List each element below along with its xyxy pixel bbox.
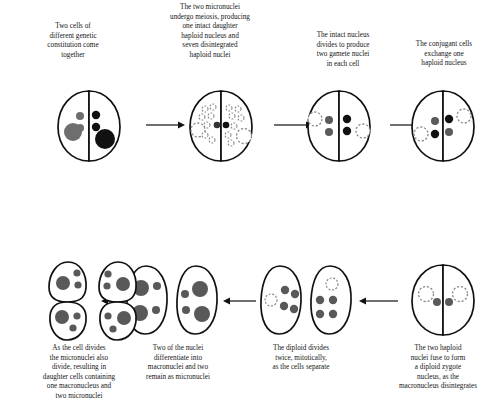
- micronucleus: [181, 290, 189, 298]
- nucleus: [280, 302, 288, 310]
- micronucleus-black: [92, 111, 100, 119]
- micronucleus: [152, 306, 160, 314]
- caption-stage-1: Two cells of different genetic constitut…: [18, 22, 128, 60]
- cell-stage-1: [50, 88, 128, 164]
- cell-stage-3: [300, 88, 378, 164]
- zygote-nucleus: [433, 298, 441, 306]
- gamete-nucleus-black: [343, 115, 351, 123]
- caption-stage-8: As the cell divides the micronuclei also…: [18, 344, 140, 402]
- caption-stage-4: The conjugant cells exchange one haploid…: [396, 40, 492, 69]
- macronucleus-black: [95, 129, 115, 149]
- nucleus: [316, 296, 324, 304]
- macronucleus-disintegrating: [356, 124, 370, 138]
- micronucleus-black: [92, 123, 100, 131]
- caption-stage-2: The two micronuclei undergo meiosis, pro…: [146, 3, 274, 61]
- macronucleus-disintegrating: [308, 112, 322, 126]
- nucleus: [316, 310, 324, 318]
- macronucleus-disintegrating: [414, 127, 428, 141]
- macronucleus: [194, 306, 210, 322]
- gamete-nucleus-grey: [325, 128, 333, 136]
- cell-stage-6: [258, 262, 354, 338]
- macronucleus-disintegrating: [457, 109, 471, 123]
- micronucleus-grey: [76, 112, 84, 120]
- macronucleus: [192, 281, 208, 297]
- micronucleus: [104, 312, 111, 319]
- arrow-1-2: [146, 120, 186, 130]
- caption-stage-5: The two haploid nuclei fuse to form a di…: [382, 344, 494, 392]
- macronucleus: [117, 311, 131, 325]
- nucleus: [290, 305, 298, 313]
- arrow-5-6: [358, 296, 398, 306]
- macronucleus-remnant: [326, 278, 338, 290]
- zygote-nucleus: [445, 298, 453, 306]
- nucleus-grey: [445, 128, 453, 136]
- micronucleus: [73, 312, 80, 319]
- cell-left-membrane: [412, 91, 443, 161]
- micronucleus: [182, 306, 190, 314]
- micronucleus: [103, 282, 110, 289]
- differentiated-cell-membrane: [177, 266, 217, 334]
- macronucleus: [56, 276, 70, 290]
- nucleus: [291, 290, 299, 298]
- nucleus-black: [431, 130, 439, 138]
- intact-haploid-nucleus-left: [214, 122, 221, 129]
- macronucleus: [55, 310, 69, 324]
- caption-stage-6: The diploid divides twice, mitotically, …: [248, 344, 354, 373]
- nucleus-black: [445, 115, 453, 123]
- intact-haploid-nucleus-right: [223, 122, 230, 129]
- cell-right-membrane: [443, 91, 474, 161]
- micronucleus: [69, 324, 76, 331]
- cell-stage-8: [46, 258, 142, 344]
- caption-stage-3: The intact nucleus divides to produce tw…: [288, 31, 398, 69]
- macronucleus-disintegrating: [419, 287, 434, 302]
- micronucleus: [104, 270, 111, 277]
- caption-stage-7: Two of the nuclei differentiate into mac…: [126, 344, 230, 382]
- nucleus: [329, 296, 337, 304]
- micronucleus: [109, 325, 116, 332]
- nucleus-grey: [431, 117, 439, 125]
- gamete-nucleus-black: [343, 127, 351, 135]
- nucleus: [281, 286, 289, 294]
- arrow-6-7: [222, 296, 256, 306]
- micronucleus: [74, 281, 81, 288]
- gamete-nucleus-grey: [325, 116, 333, 124]
- cell-stage-5: [404, 262, 482, 338]
- micronucleus: [73, 269, 80, 276]
- macronucleus-disintegrating: [237, 129, 252, 144]
- micronucleus: [153, 282, 161, 290]
- macronucleus-remnant: [265, 294, 277, 306]
- macronucleus-disintegrating: [453, 287, 468, 302]
- micronucleus-grey: [76, 124, 84, 132]
- cell-stage-2: [182, 88, 260, 164]
- daughter-cell-lower: [50, 302, 86, 340]
- cell-stage-4: [404, 88, 482, 164]
- nucleus: [329, 310, 337, 318]
- macronucleus: [116, 277, 130, 291]
